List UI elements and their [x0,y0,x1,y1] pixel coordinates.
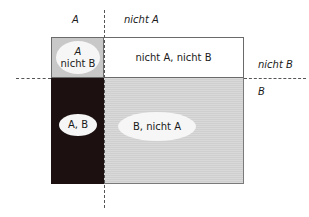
cell-not-a-not-b-text: nicht A, nicht B [104,38,243,77]
column-label-not-a: nicht A [124,14,159,25]
cell-a-b: A, B [51,78,104,184]
cell-a-not-b-line2: nicht B [61,58,96,70]
cell-b-not-a-text: B, nicht A [133,121,181,133]
horizontal-dashed-divider-left [16,78,51,79]
ellipse-a-not-b: A nicht B [56,41,100,74]
row-label-b: B [258,86,265,97]
cell-a-b-text: A, B [68,119,88,131]
cell-a-not-b: A nicht B [51,37,104,78]
vertical-dashed-divider [104,10,105,208]
cell-not-a-not-b: nicht A, nicht B [104,37,244,78]
cell-a-not-b-line1: A [61,46,96,58]
row-label-not-b: nicht B [258,59,293,70]
horizontal-dashed-divider-right [244,78,306,79]
cell-b-not-a: B, nicht A [104,78,244,184]
ellipse-b-not-a: B, nicht A [118,112,196,141]
column-label-a: A [72,14,79,25]
ellipse-a-b: A, B [59,114,97,136]
